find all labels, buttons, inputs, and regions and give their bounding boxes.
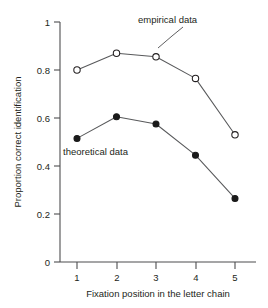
x-tick-label: 3 xyxy=(153,272,158,283)
x-axis-ticks xyxy=(77,262,235,269)
x-tick-label: 4 xyxy=(193,272,198,283)
y-tick-label: 0.8 xyxy=(37,65,50,76)
data-point xyxy=(232,195,238,201)
data-point xyxy=(153,121,159,127)
y-tick-label: 0.4 xyxy=(37,161,50,172)
data-point xyxy=(192,75,198,81)
x-axis-title: Fixation position in the letter chain xyxy=(86,288,230,299)
data-point xyxy=(232,132,238,138)
series-theoretical-data xyxy=(74,114,238,202)
y-tick-label: 0 xyxy=(45,257,50,268)
empirical-data-label: empirical data xyxy=(138,14,198,25)
y-axis-tick-labels: 1 0.8 0.6 0.4 0.2 0 xyxy=(37,17,50,268)
y-tick-label: 0.6 xyxy=(37,113,50,124)
data-point xyxy=(114,114,120,120)
x-tick-label: 5 xyxy=(232,272,237,283)
data-point xyxy=(153,54,159,60)
chart-figure: 1 0.8 0.6 0.4 0.2 0 1 2 3 4 5 xyxy=(0,0,268,308)
data-point xyxy=(113,50,119,56)
data-point xyxy=(74,67,80,73)
series-theoretical-line xyxy=(77,117,235,199)
line-chart: 1 0.8 0.6 0.4 0.2 0 1 2 3 4 5 xyxy=(0,0,268,308)
x-tick-label: 1 xyxy=(74,272,79,283)
x-axis-tick-labels: 1 2 3 4 5 xyxy=(74,272,237,283)
y-axis-title: Proportion correct identification xyxy=(12,77,23,208)
y-tick-label: 0.2 xyxy=(37,209,50,220)
x-tick-label: 2 xyxy=(114,272,119,283)
data-point xyxy=(74,135,80,141)
empirical-data-leader-line xyxy=(158,27,183,48)
data-point xyxy=(193,152,199,158)
theoretical-data-label: theoretical data xyxy=(63,146,129,157)
y-axis-ticks xyxy=(54,22,60,262)
y-tick-label: 1 xyxy=(45,17,50,28)
